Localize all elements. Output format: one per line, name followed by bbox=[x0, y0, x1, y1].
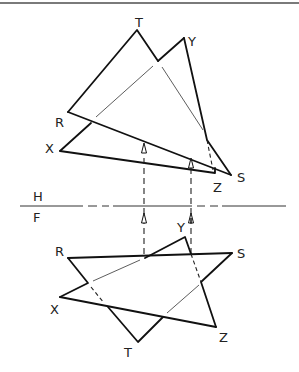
label-top-R: R bbox=[55, 115, 64, 130]
label-top-T: T bbox=[134, 15, 143, 30]
top-edge-x-up bbox=[60, 123, 91, 151]
top-view: T Y R X S Z bbox=[45, 15, 245, 195]
projection-diagram: T Y R X S Z H F bbox=[0, 0, 299, 372]
label-F: F bbox=[33, 210, 40, 225]
fold-line-hf: H F bbox=[20, 189, 286, 225]
top-edge-y-s bbox=[184, 38, 231, 175]
top-edge-r-s bbox=[68, 112, 231, 175]
top-edge-r-t bbox=[68, 30, 158, 112]
top-edge-notch-y bbox=[158, 38, 184, 61]
front-edge-x-z bbox=[60, 297, 216, 327]
front-edge-s-z bbox=[201, 253, 232, 327]
label-H: H bbox=[33, 189, 43, 204]
front-hidden-y-z bbox=[191, 254, 201, 282]
label-front-Y: Y bbox=[176, 220, 185, 235]
label-top-Y: Y bbox=[187, 34, 196, 49]
front-thin-line-1 bbox=[93, 260, 140, 281]
front-hidden-r-t bbox=[91, 287, 104, 303]
arrow-up-icon bbox=[142, 143, 147, 153]
arrow-up-icon bbox=[142, 213, 147, 223]
label-front-T: T bbox=[123, 345, 132, 360]
front-edge-r-x bbox=[60, 258, 88, 297]
label-front-Z: Z bbox=[219, 330, 228, 345]
label-front-X: X bbox=[50, 302, 59, 317]
label-top-X: X bbox=[45, 141, 54, 156]
top-thin-line-1 bbox=[96, 66, 153, 117]
front-thin-line-2 bbox=[167, 285, 199, 313]
label-front-S: S bbox=[237, 246, 245, 261]
label-top-Z: Z bbox=[213, 180, 222, 195]
front-view: R S Y X T Z bbox=[50, 220, 245, 360]
label-top-S: S bbox=[237, 170, 245, 185]
label-front-R: R bbox=[55, 244, 64, 259]
